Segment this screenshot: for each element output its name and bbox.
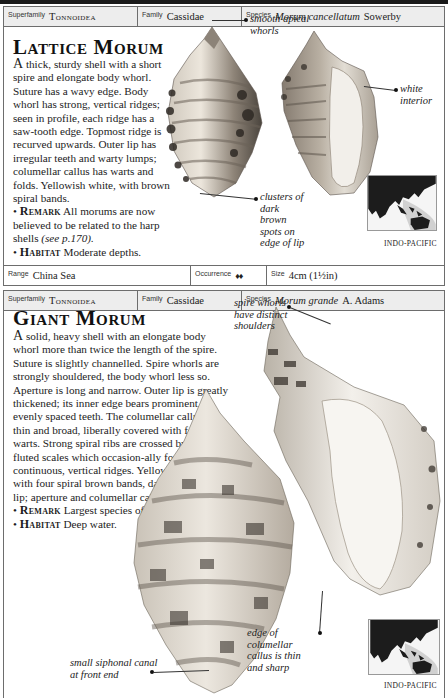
distribution-map	[368, 619, 440, 675]
habitat-label: Habitat	[20, 517, 61, 531]
description-initial: A	[13, 328, 23, 343]
annotation-dot	[394, 88, 398, 92]
shell-photo-aperture-view	[274, 27, 386, 197]
superfamily-label: Superfamily	[8, 295, 45, 302]
leader-line-apical	[212, 20, 246, 21]
family-value: Cassidae	[167, 11, 204, 22]
page-top-rule	[0, 0, 448, 4]
species-entry-lattice-morum: Superfamily Tonnoidea Family Cassidae Sp…	[3, 6, 445, 286]
species-entry-giant-morum: Superfamily Tonnoidea Family Cassidae Sp…	[3, 290, 445, 698]
annotation-edge-columellar-callus: edge of columellar callus is thin and sh…	[247, 627, 315, 673]
annotation-spire-whorls-shoulders: spire whorls have distinct shoulders	[234, 297, 298, 332]
occurrence-cell: Occurrence ♦♦	[191, 266, 267, 285]
distribution-map	[367, 175, 437, 231]
description-text: thick, sturdy shell with a short spire a…	[13, 58, 170, 204]
description-paragraph: A thick, sturdy shell with a short spire…	[13, 57, 173, 205]
family-label: Family	[142, 11, 163, 18]
superfamily-value: Tonnoidea	[49, 295, 96, 306]
annotation-clusters-dark-brown-spots: clusters of dark brown spots on edge of …	[260, 191, 308, 249]
description-initial: A	[13, 56, 23, 71]
annotation-small-siphonal-canal: small siphonal canal at front end	[70, 657, 160, 680]
entry-description: A thick, sturdy shell with a short spire…	[13, 57, 173, 259]
size-value: 4cm (1½in)	[289, 270, 338, 281]
range-label: Range	[8, 270, 29, 277]
range-value: China Sea	[33, 270, 76, 281]
size-cell: Size 4cm (1½in)	[267, 266, 444, 285]
annotation-white-interior: white interior	[400, 83, 440, 106]
habitat-text: Moderate depths.	[61, 246, 141, 258]
family-label: Family	[142, 295, 163, 302]
map-region-label: INDO-PACIFIC	[384, 239, 437, 248]
remark-page-ref[interactable]: (see p.170).	[41, 232, 94, 244]
range-cell: Range China Sea	[4, 266, 191, 285]
map-region-label: INDO-PACIFIC	[384, 681, 437, 690]
superfamily-value: Tonnoidea	[49, 11, 96, 22]
shell-pair-icon: ♦♦	[235, 271, 242, 281]
occurrence-label: Occurrence	[195, 270, 231, 277]
superfamily-cell: Superfamily Tonnoidea	[4, 7, 138, 26]
annotation-smooth-apical-whorls: smooth apical whorls	[250, 13, 310, 36]
annotation-dot	[254, 197, 258, 201]
superfamily-label: Superfamily	[8, 11, 45, 18]
annotation-dot	[244, 18, 248, 22]
annotation-dot	[318, 631, 322, 635]
species-author: Sowerby	[364, 11, 401, 22]
remark-label: Remark	[20, 503, 61, 517]
remark-label: Remark	[20, 204, 61, 218]
size-label: Size	[271, 270, 285, 277]
habitat-line: • Habitat Moderate depths.	[13, 246, 173, 259]
shell-photo-front-view	[164, 23, 274, 199]
habitat-label: Habitat	[20, 245, 61, 259]
footer-bar: Range China Sea Occurrence ♦♦ Size 4cm (…	[4, 265, 444, 285]
remark-line: • Remark All morums are now believed to …	[13, 205, 173, 245]
entry-title: Giant Morum	[13, 306, 146, 331]
